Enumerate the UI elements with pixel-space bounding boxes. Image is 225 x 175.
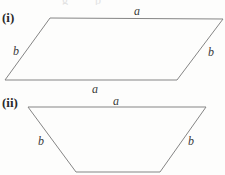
side-label-a-bottom-parallelogram: a [92, 83, 98, 95]
shapes-svg [0, 0, 225, 175]
side-label-b-left-trapezium: b [38, 135, 44, 147]
trapezium-shape [28, 107, 206, 172]
side-label-b-right-parallelogram: b [208, 46, 214, 58]
side-label-a-top-parallelogram: a [134, 5, 140, 17]
part-marker-ii: (ii) [2, 96, 18, 109]
cropped-glyph: g [62, 0, 68, 5]
side-label-b-right-trapezium: b [188, 135, 194, 147]
cropped-text-row: g p [0, 0, 225, 5]
side-label-b-left-parallelogram: b [13, 45, 19, 57]
part-marker-i: (i) [2, 11, 14, 24]
parallelogram-shape [5, 18, 223, 80]
figure-canvas: g p (i) a b b a (ii) a b b [0, 0, 225, 175]
side-label-a-top-trapezium: a [113, 95, 119, 107]
cropped-glyph: p [95, 0, 101, 5]
